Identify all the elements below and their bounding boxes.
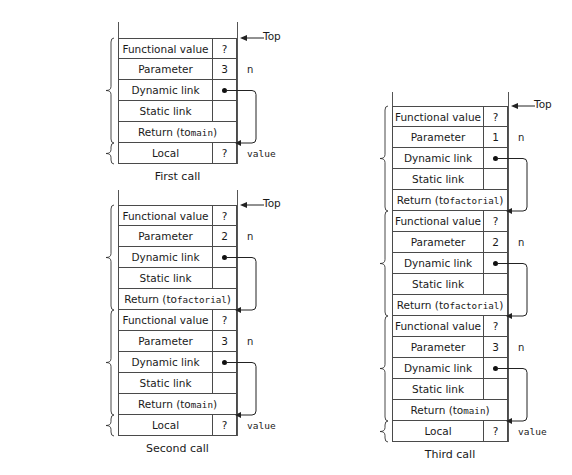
stack-row-value: 3 [483,337,507,357]
stack-row-value: 2 [483,232,507,252]
stack-row-value: ? [212,310,236,330]
top-arrow-icon [238,33,266,43]
value-annotation: value [247,420,276,431]
stack-row-label: Functional value [119,39,212,58]
frame-brace [379,105,390,212]
stack-row: Dynamic link [118,247,237,268]
stack-row: Return (tofactorial) [392,190,508,211]
n-annotation: n [247,336,253,347]
stack-row-value [483,169,507,189]
stack-row: Parameter3 [392,337,508,358]
stack-row-label: Dynamic link [119,247,212,267]
diagram-caption: First call [118,170,237,183]
n-annotation: n [518,237,524,248]
factorial-code-text: factorial [449,300,499,311]
stack-frames-second-call: Functional value?Parameter2Dynamic linkS… [118,205,237,436]
stack-row-label: Return (to main) [393,400,507,420]
stack-row: Return (tofactorial) [118,289,237,310]
stack-row: Local? [118,415,237,436]
frame-brace [379,315,390,422]
stack-row-label: Functional value [393,107,483,126]
stack-row-label: Return (to main) [119,122,236,142]
stack-row-label: Dynamic link [119,80,212,100]
stack-row: Dynamic link [118,80,237,101]
stack-row: Functional value? [118,38,237,59]
stack-row: Return (to main) [118,122,237,143]
frame-brace [105,142,116,165]
n-annotation: n [518,342,524,353]
stack-row-value: ? [483,316,507,336]
stack-row: Dynamic link [392,253,508,274]
main-code-text: main [191,127,213,138]
stack-row-value: ? [212,143,236,163]
stack-row-label: Parameter [119,226,212,246]
stack-row: Static link [392,169,508,190]
stack-row-value: 3 [212,59,236,79]
stack-row: Return (tofactorial) [392,295,508,316]
stack-row: Functional value? [392,211,508,232]
stack-rail-right [508,92,509,442]
stack-row: Functional value? [392,316,508,337]
factorial-code-text: factorial [177,294,227,305]
stack-row-value: ? [212,415,236,435]
stack-row-value [483,274,507,294]
pointer-dot-icon [493,261,498,266]
stack-row-label: Dynamic link [393,358,483,378]
stack-row-value [212,373,236,393]
stack-frames-first-call: Functional value?Parameter3Dynamic linkS… [118,38,237,164]
n-annotation: n [518,132,524,143]
stack-row: Functional value? [118,205,237,226]
dynamic-link-pointer-cell [212,80,236,100]
stack-row-label: Functional value [393,316,483,336]
stack-row: Parameter2 [118,226,237,247]
stack-row-value: 2 [212,226,236,246]
frame-brace [379,420,390,443]
stack-row: Return (to main) [392,400,508,421]
stack-row-value: 1 [483,127,507,147]
stack-row: Local? [392,421,508,442]
factorial-code-text: factorial [449,195,499,206]
stack-row: Functional value? [392,106,508,127]
dynamic-link-pointer-cell [483,358,507,378]
stack-row: Parameter3 [118,59,237,80]
pointer-dot-icon [222,360,227,365]
stack-row-label: Functional value [119,206,212,225]
n-annotation: n [247,231,253,242]
stack-row-value [212,268,236,288]
frame-brace [379,210,390,317]
stack-rail-right [237,22,238,164]
diagram-caption: Third call [392,448,508,461]
stack-row: Static link [392,379,508,400]
stack-row-value [483,379,507,399]
stack-row-label: Return (tofactorial) [393,295,507,315]
stack-row-label: Local [119,143,212,163]
stack-row-label: Parameter [393,232,483,252]
stack-row-label: Static link [119,101,212,121]
stack-row-label: Parameter [393,337,483,357]
dynamic-link-pointer-cell [212,247,236,267]
stack-frames-third-call: Functional value?Parameter1Dynamic linkS… [392,106,508,442]
stack-row: Parameter2 [392,232,508,253]
top-arrow-icon [509,101,537,111]
top-label: Top [534,98,552,110]
dynamic-link-pointer-cell [212,352,236,372]
diagram-caption: Second call [118,442,237,455]
stack-row-label: Dynamic link [393,253,483,273]
top-label: Top [263,197,281,209]
stack-rail-right [237,190,238,436]
stack-row-label: Return (tofactorial) [393,190,507,210]
value-annotation: value [518,426,547,437]
stack-row-label: Functional value [119,310,212,330]
stack-row-label: Functional value [393,211,483,231]
frame-brace [105,414,116,437]
stack-row-label: Static link [393,379,483,399]
stack-row-label: Return (tofactorial) [119,289,236,309]
stack-row: Return (to main) [118,394,237,415]
main-code-text: main [191,399,213,410]
stack-row-label: Local [393,421,483,441]
stack-row-label: Parameter [393,127,483,147]
pointer-dot-icon [493,156,498,161]
stack-row-value: 3 [212,331,236,351]
stack-row: Functional value? [118,310,237,331]
stack-row-label: Parameter [119,59,212,79]
